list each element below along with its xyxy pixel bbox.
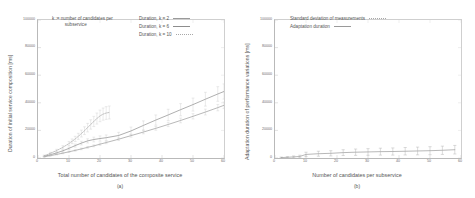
panel-caption-a: (a) [25,183,215,189]
x-tick-label: 30 [122,159,138,163]
legend-item-label: Adaptation duration [290,24,330,29]
legend-item: Duration, k = 10 [139,30,193,38]
plot-canvas-b [275,20,461,158]
y-tick-label: 40000 [2,100,35,104]
legend-key-swatch [369,18,386,19]
chart-panel-a: Duration of initial service composition … [0,0,237,198]
legend-item: Duration, k = 6 [139,22,193,30]
legend-item: Duration, k = 2 [139,14,193,22]
x-tick-label: 50 [421,159,437,163]
annotation-k-definition: k := number of candidates per subservice [52,16,113,28]
legend-item-label: Duration, k = 2 [139,16,169,21]
legend-item: Adaptation duration [290,22,386,30]
y-tick-label: 60000 [239,72,272,76]
x-tick-label: 10 [60,159,76,163]
x-axis-label-b: Number of candidates per subservice [262,172,452,178]
y-tick-label: 100000 [239,17,272,21]
x-tick-label: 40 [153,159,169,163]
y-tick-label: 40000 [239,100,272,104]
y-tick-label: 20000 [2,127,35,131]
x-tick-label: 60 [215,159,231,163]
legend-key-swatch [173,18,190,19]
x-tick-label: 50 [184,159,200,163]
x-tick-label: 0 [29,159,45,163]
legend-item: Standard deviation of measurements [290,14,386,22]
x-axis-label-a: Total number of candidates of the compos… [25,172,215,178]
x-tick-label: 40 [390,159,406,163]
legend-b: Standard deviation of measurementsAdapta… [290,14,386,30]
chart-panel-b: Adaptation duration of performance varia… [237,0,475,198]
x-tick-label: 30 [359,159,375,163]
y-tick-label: 80000 [239,44,272,48]
legend-item-label: Duration, k = 6 [139,24,169,29]
x-tick-label: 10 [297,159,313,163]
plot-area-b [274,19,462,159]
legend-item-label: Standard deviation of measurements [290,16,365,21]
legend-item-label: Duration, k = 10 [139,32,172,37]
y-tick-label: 20000 [239,127,272,131]
x-tick-label: 0 [266,159,282,163]
y-tick-label: 100000 [2,17,35,21]
figure-container: Duration of initial service composition … [0,0,475,198]
legend-key-swatch [176,34,193,35]
legend-key-swatch [334,26,351,27]
x-tick-label: 20 [328,159,344,163]
legend-a: Duration, k = 2Duration, k = 6Duration, … [139,14,193,38]
panel-caption-b: (b) [262,183,452,189]
y-tick-label: 80000 [2,44,35,48]
x-tick-label: 20 [91,159,107,163]
y-tick-label: 60000 [2,72,35,76]
legend-key-swatch [173,26,190,27]
plot-canvas-a [38,20,224,158]
plot-area-a [37,19,225,159]
x-tick-label: 60 [452,159,468,163]
